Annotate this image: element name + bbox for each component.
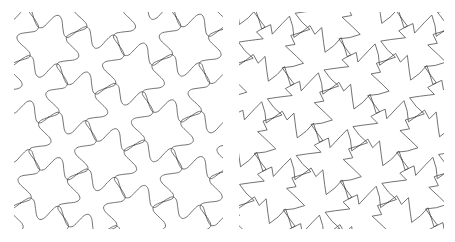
tile-edge: [426, 63, 444, 98]
tile-edge: [241, 51, 291, 86]
tile-edge: [96, 42, 127, 90]
tile-edge: [209, 12, 223, 33]
tile-edge: [67, 12, 98, 34]
tile-edge: [141, 199, 172, 229]
tile-edge: [239, 12, 262, 29]
tile-edge: [188, 108, 223, 139]
tile-edge: [203, 206, 223, 229]
tile-edge: [14, 138, 37, 169]
tile-edge: [242, 193, 292, 228]
tile-edge: [405, 70, 440, 120]
tile-edge: [117, 36, 165, 67]
tile-edge: [262, 71, 297, 121]
tile-edge: [125, 99, 156, 147]
tile-edge: [335, 142, 370, 192]
tile-edge: [355, 135, 405, 170]
tile-edge: [216, 23, 223, 54]
tile-edge: [239, 200, 257, 229]
tile-edge: [26, 12, 57, 21]
tile-edge: [278, 171, 313, 221]
tile-edge: [154, 156, 185, 204]
tile-edge: [412, 107, 444, 142]
tile-edge: [364, 199, 399, 229]
tile-edge: [14, 12, 36, 27]
tile-edge: [239, 136, 263, 171]
tile-edge: [60, 65, 108, 96]
tile-edge: [284, 64, 334, 99]
tile-edge: [312, 12, 362, 14]
tile-edge: [256, 150, 306, 185]
tiling-group: [14, 12, 223, 229]
tile-edge: [348, 99, 383, 149]
tile-edge: [319, 43, 354, 93]
tile-edge: [85, 228, 116, 229]
tile-edge: [97, 185, 128, 229]
tile-edge: [118, 178, 166, 209]
tile-edge: [291, 128, 326, 178]
tile-edge: [384, 192, 434, 227]
tessellation-figure: [0, 0, 455, 242]
tile-edge: [249, 115, 284, 165]
tile-edge: [328, 221, 378, 229]
tile-edge: [89, 122, 137, 153]
tile-edge: [406, 213, 441, 229]
tile-edge: [341, 35, 391, 70]
tile-edge: [198, 170, 223, 218]
tile-edge: [354, 12, 404, 28]
tile-edge: [146, 93, 194, 124]
tile-edge: [239, 100, 241, 150]
tile-edge: [130, 12, 178, 26]
tile-edge: [376, 14, 411, 64]
panel-angular-tessellation: [239, 12, 444, 229]
tile-edge: [111, 12, 142, 49]
angular-tessellation-canvas: [239, 12, 444, 229]
tile-edge: [392, 113, 427, 163]
tile-edge: [181, 70, 212, 118]
tile-edge: [285, 206, 335, 229]
tile-edge: [277, 29, 312, 79]
tile-edge: [327, 79, 377, 114]
tile-edge: [298, 22, 348, 57]
tile-edge: [174, 150, 222, 181]
tile-edge: [153, 14, 184, 62]
tile-edge: [263, 214, 298, 229]
tiling-group: [239, 12, 444, 229]
tile-edge: [342, 177, 392, 212]
tile-edge: [217, 165, 223, 196]
tile-edge: [103, 223, 151, 229]
tile-edge: [290, 12, 325, 36]
tile-edge: [239, 58, 256, 108]
tile-edge: [183, 213, 214, 229]
tile-edge: [370, 92, 420, 127]
tile-edge: [419, 28, 444, 78]
tile-edge: [202, 64, 223, 95]
tile-edge: [210, 127, 223, 175]
tile-edge: [441, 163, 444, 198]
tile-edge: [39, 71, 70, 119]
tile-edge: [168, 12, 199, 20]
tile-edge: [40, 214, 71, 229]
tile-edge: [383, 50, 433, 85]
tile-edge: [313, 121, 363, 156]
tile-edge: [307, 228, 342, 229]
tile-edge: [334, 12, 369, 50]
tile-edge: [14, 179, 24, 210]
tile-edge: [14, 200, 30, 229]
tile-edge: [299, 164, 349, 199]
tile-edge: [270, 108, 320, 143]
tile-edge: [197, 28, 223, 76]
tile-edge: [68, 128, 99, 176]
curved-tessellation-canvas: [14, 12, 223, 229]
tile-edge: [32, 151, 80, 182]
tile-edge: [363, 57, 398, 107]
tile-edge: [440, 21, 444, 56]
tile-edge: [377, 156, 412, 206]
tile-edge: [14, 94, 52, 125]
panel-curved-tessellation: [14, 12, 223, 229]
tile-edge: [306, 86, 341, 136]
tile-edge: [14, 58, 29, 106]
tile-edge: [391, 12, 426, 21]
tile-edge: [248, 12, 283, 22]
